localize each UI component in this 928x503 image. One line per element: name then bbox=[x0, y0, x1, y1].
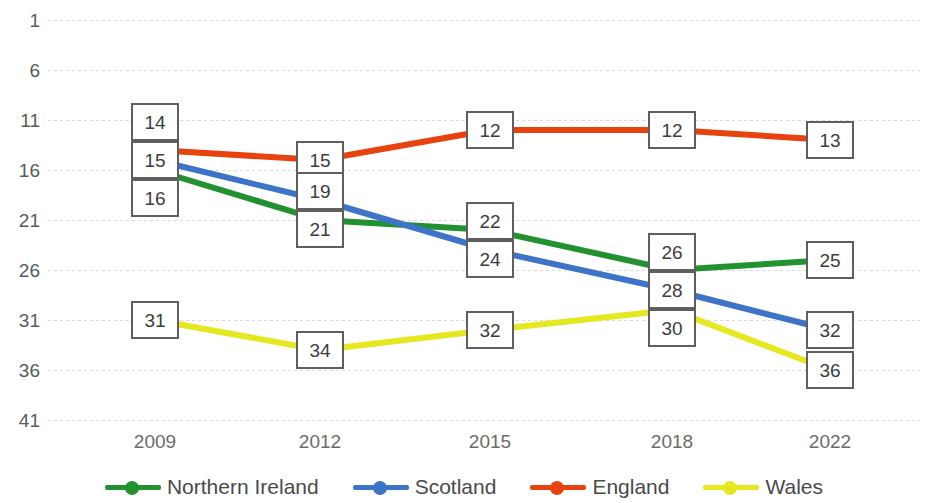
x-axis-tick-label: 2022 bbox=[809, 432, 851, 451]
legend-swatch-icon bbox=[105, 479, 161, 495]
data-label: 25 bbox=[806, 241, 854, 279]
data-label: 30 bbox=[648, 309, 696, 347]
data-label: 28 bbox=[648, 271, 696, 309]
data-label: 19 bbox=[296, 172, 344, 210]
legend-swatch-icon bbox=[353, 479, 409, 495]
legend-dot-icon bbox=[550, 481, 564, 495]
data-label: 14 bbox=[131, 103, 179, 141]
data-label: 22 bbox=[466, 202, 514, 240]
data-label: 31 bbox=[131, 301, 179, 339]
data-label: 21 bbox=[296, 210, 344, 248]
legend-item-scotland[interactable]: Scotland bbox=[353, 476, 497, 497]
legend-label: Scotland bbox=[415, 476, 497, 497]
x-axis-tick-label: 2018 bbox=[651, 432, 693, 451]
legend-swatch-icon bbox=[703, 479, 759, 495]
data-label: 26 bbox=[648, 233, 696, 271]
data-label: 16 bbox=[131, 179, 179, 217]
data-label: 34 bbox=[296, 331, 344, 369]
legend-label: England bbox=[592, 476, 669, 497]
legend-label: Northern Ireland bbox=[167, 476, 319, 497]
data-label: 32 bbox=[806, 311, 854, 349]
data-label: 36 bbox=[806, 351, 854, 389]
data-label: 13 bbox=[806, 121, 854, 159]
data-label: 15 bbox=[131, 141, 179, 179]
x-axis-tick-label: 2009 bbox=[134, 432, 176, 451]
data-label: 12 bbox=[466, 111, 514, 149]
data-label: 32 bbox=[466, 311, 514, 349]
data-label-layer: 1415163115192134122224321226283013253236 bbox=[0, 0, 928, 430]
legend-label: Wales bbox=[765, 476, 823, 497]
legend-swatch-icon bbox=[530, 479, 586, 495]
plot-area: 1611162126313641 14151631151921341222243… bbox=[0, 0, 928, 430]
x-axis-tick-label: 2012 bbox=[299, 432, 341, 451]
rank-line-chart: 1611162126313641 14151631151921341222243… bbox=[0, 0, 928, 503]
data-label: 24 bbox=[466, 240, 514, 278]
legend-item-northern-ireland[interactable]: Northern Ireland bbox=[105, 476, 319, 497]
data-label: 12 bbox=[648, 111, 696, 149]
legend-dot-icon bbox=[125, 481, 139, 495]
chart-legend: Northern IrelandScotlandEnglandWales bbox=[0, 470, 928, 503]
legend-dot-icon bbox=[723, 481, 737, 495]
legend-item-england[interactable]: England bbox=[530, 476, 669, 497]
x-axis-tick-label: 2015 bbox=[469, 432, 511, 451]
legend-dot-icon bbox=[373, 481, 387, 495]
legend-item-wales[interactable]: Wales bbox=[703, 476, 823, 497]
